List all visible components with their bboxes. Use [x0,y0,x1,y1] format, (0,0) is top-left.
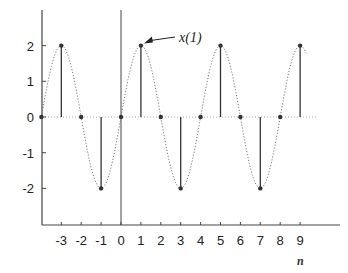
stem-marker [79,115,83,119]
x-tick-label: 2 [157,233,164,248]
stem-n5 [218,43,222,117]
x-tick-label: 1 [137,233,144,248]
stem-marker [159,115,163,119]
x-tick-label: 7 [257,233,264,248]
y-tick-label: 2 [27,39,34,54]
stem-plot: 210-1-2 -3-2-10123456789 x(1) n [0,0,348,273]
stem-marker [99,186,103,190]
stem-marker [298,43,302,47]
stem-marker [218,43,222,47]
y-tick-label: 0 [27,110,34,125]
annotation-label: x(1) [178,30,202,46]
stem-marker [238,115,242,119]
stem-n6 [238,115,242,119]
stem-n-2 [79,115,83,119]
stem-n9 [298,43,302,117]
y-tick-label: -2 [22,181,34,196]
x-tick-label: -2 [75,233,87,248]
x-tick-label: -1 [95,233,107,248]
stem-marker [179,186,183,190]
stem-marker [59,43,63,47]
stem-marker [119,115,123,119]
x-tick-label: 3 [177,233,184,248]
arrow-head-icon [144,37,153,44]
x-tick-label: 8 [277,233,284,248]
x-tick-label: 4 [197,233,204,248]
stem-n3 [179,117,183,191]
stem-marker [198,115,202,119]
x-tick-label: -3 [56,233,68,248]
stem-n0 [119,115,123,119]
stem-marker [139,43,143,47]
stem-n-3 [59,43,63,117]
stem-marker [258,186,262,190]
y-tick-label: 1 [27,74,34,89]
stem-n7 [258,117,262,191]
y-tick-label: -1 [22,146,34,161]
stem-marker [278,115,282,119]
x-tick-label: 6 [237,233,244,248]
x-tick-label: 0 [117,233,124,248]
x-tick-label: 5 [217,233,224,248]
annotation-x1: x(1) [144,30,202,46]
stem-n1 [139,43,143,117]
stem-n4 [198,115,202,119]
stem-n-1 [99,117,103,191]
stem-n8 [278,115,282,119]
annotation-arrow [150,37,175,41]
x-tick-label: 9 [296,233,303,248]
x-axis-label: n [297,254,304,268]
stem-n2 [159,115,163,119]
x-axis-ticks: -3-2-10123456789 [56,222,304,248]
